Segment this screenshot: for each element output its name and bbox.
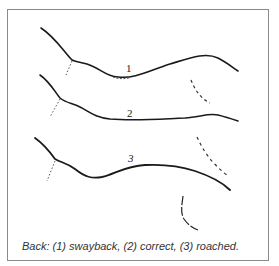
profile-correct: 2 [40, 75, 238, 121]
profile-roached: 3 [35, 137, 230, 230]
label-3: 3 [127, 152, 134, 164]
label-2: 2 [127, 107, 133, 119]
back-profiles-illustration: 1 2 3 [0, 0, 279, 266]
label-1: 1 [126, 62, 132, 74]
figure-caption: Back: (1) swayback, (2) correct, (3) roa… [22, 240, 239, 252]
profile-swayback: 1 [41, 28, 238, 79]
